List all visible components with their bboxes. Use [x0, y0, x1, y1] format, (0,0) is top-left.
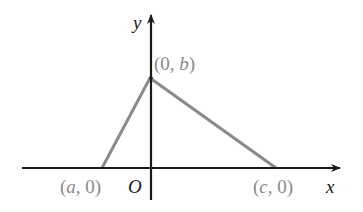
coordinate-plane: y x O (0, b) (a, 0) (c, 0) — [0, 0, 363, 212]
vertex-label-top: (0, b) — [154, 53, 195, 75]
apex-point — [149, 76, 153, 80]
vertex-label-left: (a, 0) — [60, 176, 101, 198]
x-axis-label: x — [325, 176, 335, 197]
vertex-label-right: (c, 0) — [253, 176, 293, 198]
diagram-canvas: y x O (0, b) (a, 0) (c, 0) — [0, 0, 363, 212]
triangle — [102, 78, 276, 168]
y-axis-label: y — [131, 12, 142, 33]
origin-label: O — [128, 176, 142, 197]
